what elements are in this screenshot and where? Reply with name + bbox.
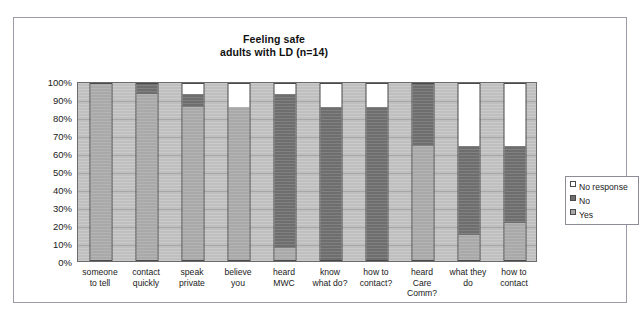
- bar-segment-no: [321, 107, 342, 260]
- x-axis-label-line: believe: [215, 267, 261, 278]
- bar-segment-no: [413, 83, 434, 146]
- legend-label: No: [579, 196, 590, 206]
- segment-texture: [137, 94, 158, 260]
- legend-swatch-icon: [570, 209, 576, 215]
- bar-segment-yes: [459, 235, 480, 260]
- x-axis-tick-label: what theydo: [445, 267, 491, 288]
- x-axis-label-line: Care: [399, 278, 445, 289]
- segment-texture: [505, 146, 526, 223]
- x-axis-label-line: you: [215, 278, 261, 289]
- stacked-bar[interactable]: [458, 83, 481, 261]
- x-axis-label-line: do: [445, 278, 491, 289]
- stacked-bar[interactable]: [504, 83, 527, 261]
- bar-segment-no: [137, 83, 158, 94]
- x-axis-label-line: how to: [491, 267, 537, 278]
- stacked-bar[interactable]: [412, 83, 435, 261]
- bar-segment-no-response: [505, 83, 526, 146]
- segment-texture: [137, 83, 158, 94]
- segment-texture: [505, 223, 526, 260]
- bar-segment-no-response: [275, 83, 296, 94]
- y-axis-tick-label: 10%: [26, 239, 72, 250]
- stacked-bar[interactable]: [228, 83, 251, 261]
- bar-group: [170, 83, 216, 261]
- y-axis-tick-label: 50%: [26, 167, 72, 178]
- bar-group: [124, 83, 170, 261]
- y-axis-tick-label: 70%: [26, 131, 72, 142]
- bar-segment-no: [183, 94, 204, 106]
- x-axis-label-line: quickly: [123, 278, 169, 289]
- legend-swatch-icon: [570, 181, 576, 187]
- x-axis-label-line: how to: [353, 267, 399, 278]
- segment-texture: [275, 94, 296, 247]
- y-axis-tick-label: 100%: [26, 77, 72, 88]
- segment-texture: [367, 107, 388, 260]
- bar-segment-yes: [505, 223, 526, 260]
- x-axis-tick-label: how tocontact?: [353, 267, 399, 288]
- segment-texture: [459, 146, 480, 235]
- chart-title: Feeling safe adults with LD (n=14): [14, 33, 534, 59]
- bar-group: [400, 83, 446, 261]
- segment-texture: [459, 235, 480, 260]
- stacked-bar[interactable]: [136, 83, 159, 261]
- segment-texture: [413, 83, 434, 146]
- bar-segment-yes: [183, 107, 204, 260]
- x-axis-tick-label: how tocontact: [491, 267, 537, 288]
- bar-segment-yes: [229, 107, 250, 260]
- chart-frame: Feeling safe adults with LD (n=14) 0%10%…: [13, 17, 627, 303]
- bar-segment-no: [367, 107, 388, 260]
- stacked-bar[interactable]: [90, 83, 113, 261]
- x-axis-label-line: contact?: [353, 278, 399, 289]
- legend-item-no-response[interactable]: No response: [570, 181, 635, 192]
- bar-segment-yes: [137, 94, 158, 260]
- x-axis-label-line: private: [169, 278, 215, 289]
- x-axis-tick-label: knowwhat do?: [307, 267, 353, 288]
- bar-group: [308, 83, 354, 261]
- x-axis-label-line: what do?: [307, 278, 353, 289]
- chart-title-line1: Feeling safe: [243, 33, 305, 45]
- y-axis-tick-label: 80%: [26, 113, 72, 124]
- y-axis-tick-label: 0%: [26, 257, 72, 268]
- bar-group: [262, 83, 308, 261]
- x-axis-label-line: Comm?: [399, 288, 445, 299]
- x-axis-label-line: heard: [399, 267, 445, 278]
- stacked-bar[interactable]: [182, 83, 205, 261]
- bar-group: [354, 83, 400, 261]
- x-axis-label-line: what they: [445, 267, 491, 278]
- bar-segment-yes: [275, 248, 296, 260]
- bar-segment-no: [459, 146, 480, 235]
- x-axis-label-line: someone: [77, 267, 123, 278]
- bar-segment-no-response: [229, 83, 250, 107]
- bar-group: [446, 83, 492, 261]
- bar-segment-no-response: [459, 83, 480, 146]
- x-axis-label-line: speak: [169, 267, 215, 278]
- stacked-bar[interactable]: [366, 83, 389, 261]
- segment-texture: [91, 83, 112, 260]
- bar-segment-no: [505, 146, 526, 223]
- segment-texture: [183, 94, 204, 106]
- stacked-bar[interactable]: [320, 83, 343, 261]
- bar-segment-yes: [91, 83, 112, 260]
- segment-texture: [413, 146, 434, 260]
- plot-area: [77, 82, 537, 262]
- y-axis-tick-label: 90%: [26, 95, 72, 106]
- x-axis-label-line: MWC: [261, 278, 307, 289]
- y-axis-tick-label: 40%: [26, 185, 72, 196]
- bar-segment-no-response: [321, 83, 342, 107]
- legend-item-yes[interactable]: Yes: [570, 209, 635, 220]
- x-axis-tick-label: believeyou: [215, 267, 261, 288]
- legend-item-no[interactable]: No: [570, 195, 635, 206]
- segment-texture: [321, 107, 342, 260]
- bar-segment-no: [275, 94, 296, 247]
- bar-segment-no-response: [367, 83, 388, 107]
- x-axis: someoneto tellcontactquicklyspeakprivate…: [77, 267, 537, 311]
- x-axis-tick-label: speakprivate: [169, 267, 215, 288]
- x-axis-tick-label: contactquickly: [123, 267, 169, 288]
- chart-legend: No responseNoYes: [565, 176, 639, 225]
- bar-group: [492, 83, 538, 261]
- x-axis-tick-label: heardMWC: [261, 267, 307, 288]
- gridline: [78, 263, 536, 264]
- bar-segment-yes: [413, 146, 434, 260]
- y-axis: 0%10%20%30%40%50%60%70%80%90%100%: [26, 76, 72, 268]
- x-axis-label-line: know: [307, 267, 353, 278]
- stacked-bar[interactable]: [274, 83, 297, 261]
